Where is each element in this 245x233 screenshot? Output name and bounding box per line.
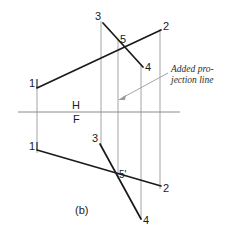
- annotation-leader: [118, 73, 168, 100]
- leader-arrowhead: [118, 95, 126, 100]
- figure-container: 3 2 5 4 1 H F 1 3 5' 2 4 Added pro- ject…: [0, 0, 245, 233]
- fold-line-label-h: H: [72, 100, 80, 111]
- label-top-point-5: 5: [120, 34, 126, 45]
- label-front-point-2: 2: [163, 183, 169, 194]
- label-front-point-1: 1: [29, 141, 35, 152]
- figure-caption: (b): [75, 205, 88, 216]
- label-front-point-5: 5': [119, 170, 126, 180]
- label-top-point-3: 3: [95, 11, 101, 22]
- front-view-lines: [37, 144, 161, 219]
- projection-lines-group: [37, 21, 160, 220]
- label-top-point-2: 2: [163, 21, 169, 32]
- leader-line: [122, 73, 168, 98]
- front-view-line-3-4: [100, 144, 141, 219]
- label-top-point-4: 4: [145, 62, 151, 73]
- label-front-point-3: 3: [92, 133, 98, 144]
- top-view-line-3-4: [103, 23, 143, 67]
- fold-line-label-f: F: [73, 114, 80, 125]
- top-view-line-1-2: [37, 30, 161, 88]
- label-front-point-4: 4: [143, 215, 149, 226]
- annotation-text: Added pro- jection line: [171, 64, 214, 86]
- front-view-line-1-2: [37, 150, 161, 186]
- label-top-point-1: 1: [29, 78, 35, 89]
- top-view-lines: [37, 23, 161, 88]
